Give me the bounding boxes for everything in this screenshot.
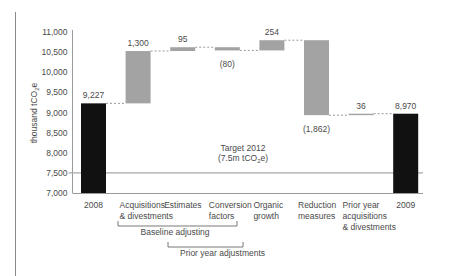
target-label-line2: (7.5m tCO2e) — [218, 153, 268, 164]
y-tick-label: 10,000 — [42, 67, 68, 77]
y-tick-label: 11,000 — [42, 27, 68, 37]
category-label-line: 2008 — [84, 200, 103, 210]
value-label: (80) — [220, 59, 235, 69]
y-tick-label: 7,000 — [46, 188, 68, 198]
category-label-line: Reduction — [298, 200, 337, 210]
category-label-line: Acquisitions — [120, 200, 165, 210]
category-label-line: growth — [253, 211, 279, 221]
target-label-line1: Target 2012 — [221, 143, 266, 153]
value-label: 95 — [178, 34, 188, 44]
bar-0 — [81, 103, 106, 193]
bar-4 — [259, 40, 284, 50]
target-group: Target 2012 (7.5m tCO2e) — [69, 143, 424, 173]
y-tick-label: 8,000 — [46, 148, 68, 158]
value-label: 36 — [356, 101, 366, 111]
brackets: Baseline adjustingPrior year adjustments — [118, 221, 265, 258]
category-label: Organicgrowth — [253, 200, 284, 221]
y-tick-label: 9,000 — [46, 108, 68, 118]
category-label: Estimates — [164, 200, 201, 210]
category-label-line: factors — [209, 211, 235, 221]
category-label-line: Organic — [253, 200, 284, 210]
y-tick-label: 9,500 — [46, 87, 68, 97]
value-label: 254 — [265, 27, 279, 37]
bar-3 — [215, 47, 240, 50]
bar-2 — [170, 47, 195, 51]
category-label: Reductionmeasures — [298, 200, 337, 221]
category-label-line: Conversion — [209, 200, 252, 210]
bar-1 — [126, 51, 151, 103]
category-label: Conversionfactors — [209, 200, 252, 221]
category-label-line: Prior year — [343, 200, 380, 210]
category-label-line: 2009 — [396, 200, 415, 210]
category-label-line: & divestments — [120, 211, 173, 221]
waterfall-chart: thousand tCO2e 7,0007,5008,0008,5009,000… — [0, 0, 449, 276]
category-label: 2008 — [84, 200, 103, 210]
x-axis-labels: 2008Acquisitions& divestmentsEstimatesCo… — [84, 200, 415, 232]
bar-6 — [349, 114, 374, 115]
bracket-line — [168, 242, 243, 247]
y-tick-label: 10,500 — [42, 47, 68, 57]
y-tick-label: 7,500 — [46, 168, 68, 178]
category-label-line: measures — [298, 211, 335, 221]
bar-5 — [304, 40, 329, 115]
y-axis-ticks: 7,0007,5008,0008,5009,0009,50010,00010,5… — [42, 27, 68, 198]
bracket-label: Prior year adjustments — [180, 248, 265, 258]
value-label: 9,227 — [83, 90, 105, 100]
bar-7 — [393, 114, 418, 193]
value-label: 8,970 — [395, 101, 417, 111]
bracket-line — [118, 221, 237, 226]
category-label: 2009 — [396, 200, 415, 210]
bars — [81, 40, 418, 193]
y-tick-label: 8,500 — [46, 128, 68, 138]
category-label-line: & divestments — [343, 222, 396, 232]
bracket-label: Baseline adjusting — [141, 227, 210, 237]
value-label: (1,862) — [303, 124, 330, 134]
value-label: 1,300 — [127, 38, 149, 48]
category-label-line: acquisitions — [343, 211, 387, 221]
category-label: Prior yearacquisitions& divestments — [343, 200, 396, 232]
category-label-line: Estimates — [164, 200, 201, 210]
y-axis-label: thousand tCO2e — [29, 82, 40, 143]
